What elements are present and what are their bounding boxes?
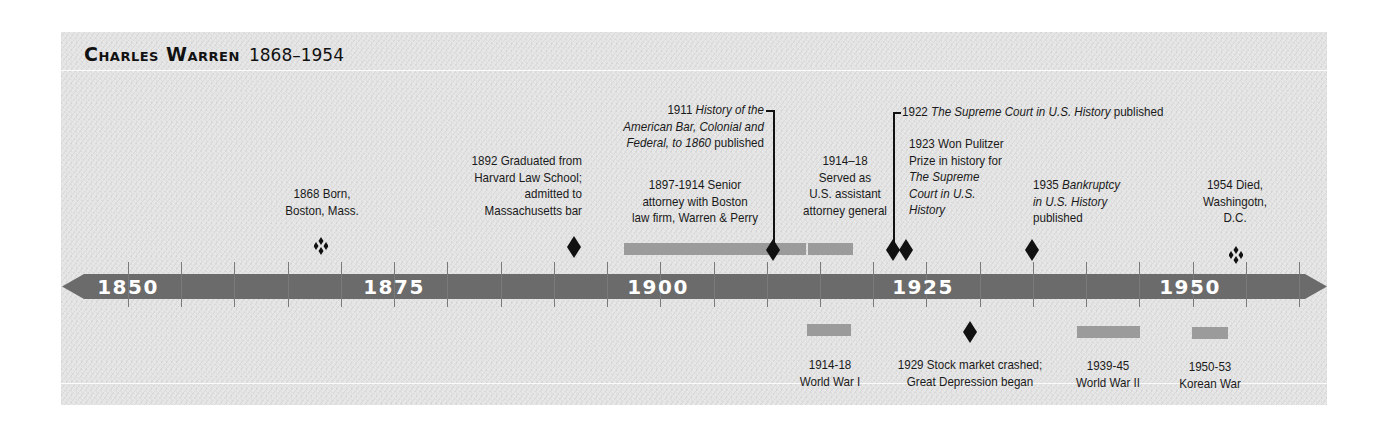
- label-line: 1939-45: [1065, 358, 1151, 375]
- label-line: 1897-1914 Senior: [613, 177, 776, 194]
- event-1911-history-label: 1911 History of the American Bar, Coloni…: [597, 102, 764, 152]
- tick-1910: [767, 262, 768, 307]
- label-line: admitted to: [453, 186, 582, 203]
- label-line: History: [909, 202, 1004, 219]
- tick-1940: [1086, 262, 1087, 307]
- axis-label-1850: 1850: [97, 274, 159, 299]
- label-line: World War II: [1065, 375, 1151, 392]
- timeline-axis-band: [62, 274, 1327, 299]
- tick-1865: [288, 262, 289, 307]
- tick-1885: [501, 262, 502, 307]
- event-1922-supreme-court-label: 1922 The Supreme Court in U.S. History p…: [902, 104, 1163, 121]
- tick-1920: [873, 262, 874, 307]
- tick-1860: [234, 262, 235, 307]
- label-line: Massachusetts bar: [453, 203, 582, 220]
- tick-1915: [820, 262, 821, 307]
- title-years: 1868–1954: [249, 45, 344, 65]
- bar-1914-18-assistant-ag: [808, 243, 853, 255]
- label-line: Harvard Law School;: [453, 170, 582, 187]
- label-line: 1923 Won Pulitzer: [909, 136, 1004, 153]
- axis-label-1875: 1875: [363, 274, 425, 299]
- diamond-marker-icon: [1025, 239, 1039, 261]
- tick-1890: [554, 262, 555, 307]
- diamond-marker-icon: [567, 236, 581, 258]
- axis-label-1950: 1950: [1159, 274, 1221, 299]
- event-1914-18-assistant-ag-label: 1914–18 Served as U.S. assistant attorne…: [802, 153, 888, 219]
- label-line: 1954 Died,: [1192, 177, 1278, 194]
- axis-label-1925: 1925: [892, 274, 954, 299]
- label-line: 1911 History of the: [597, 102, 764, 119]
- label-line: 1892 Graduated from: [453, 153, 582, 170]
- label-italic: American Bar, Colonial and: [623, 119, 764, 134]
- leader-line-1922-vertical: [893, 112, 895, 250]
- label-line: law firm, Warren & Perry: [613, 210, 776, 227]
- tick-1870: [341, 262, 342, 307]
- diamond-marker-icon: [963, 321, 977, 343]
- event-world-war-2-label: 1939-45 World War II: [1065, 358, 1151, 391]
- event-1897-1914-attorney-label: 1897-1914 Senior attorney with Boston la…: [613, 177, 776, 227]
- label-line: 1914-18: [787, 357, 873, 374]
- event-korean-war-label: 1950-53 Korean War: [1167, 359, 1253, 392]
- texture-line: [61, 70, 1327, 71]
- timeline-title: Charles Warren 1868–1954: [84, 43, 344, 65]
- label-line: Boston, Mass.: [279, 203, 365, 220]
- ornament-diamond-icon: [314, 237, 328, 255]
- bar-1939-45-world-war-2: [1077, 326, 1140, 338]
- label-line: Federal, to 1860 published: [597, 135, 764, 152]
- label-line: Korean War: [1167, 376, 1253, 393]
- label-line: Washingotn,: [1192, 194, 1278, 211]
- label-line: The Supreme: [909, 169, 1004, 186]
- label-italic: Court in U.S.: [909, 186, 975, 201]
- label-line: 1929 Stock market crashed;: [893, 357, 1048, 374]
- label-line: 1935 Bankruptcy: [1033, 177, 1120, 194]
- event-world-war-1-label: 1914-18 World War I: [787, 357, 873, 390]
- bar-1914-18-world-war-1: [807, 324, 851, 336]
- axis-label-1900: 1900: [627, 274, 689, 299]
- diamond-marker-icon: [899, 239, 913, 261]
- label-line: attorney with Boston: [613, 194, 776, 211]
- tick-1905: [714, 262, 715, 307]
- label-plain: published: [1114, 104, 1164, 119]
- label-italic: The Supreme Court in U.S. History: [931, 104, 1110, 119]
- label-line: published: [1033, 210, 1120, 227]
- event-1868-born-label: 1868 Born, Boston, Mass.: [279, 186, 365, 219]
- label-line: Prize in history for: [909, 153, 1004, 170]
- label-line: American Bar, Colonial and: [597, 119, 764, 136]
- label-line: 1868 Born,: [279, 186, 365, 203]
- label-line: Served as: [802, 170, 888, 187]
- event-1929-crash-label: 1929 Stock market crashed; Great Depress…: [893, 357, 1048, 390]
- tick-1960: [1299, 262, 1300, 307]
- tick-1930: [980, 262, 981, 307]
- tick-1855: [181, 262, 182, 307]
- label-line: attorney general: [802, 203, 888, 220]
- label-line: in U.S. History: [1033, 194, 1120, 211]
- label-italic: The Supreme: [909, 169, 979, 184]
- label-line: World War I: [787, 374, 873, 391]
- tick-1895: [607, 262, 608, 307]
- label-year: 1922: [902, 104, 928, 119]
- event-1935-bankruptcy-label: 1935 Bankruptcy in U.S. History publishe…: [1033, 177, 1120, 227]
- label-plain: published: [714, 135, 764, 150]
- label-italic: History: [909, 202, 945, 217]
- label-line: Great Depression began: [893, 374, 1048, 391]
- tick-1955: [1246, 262, 1247, 307]
- label-line: 1950-53: [1167, 359, 1253, 376]
- diamond-marker-icon: [766, 239, 780, 261]
- label-italic: History of the: [696, 102, 764, 117]
- label-line: Court in U.S.: [909, 186, 1004, 203]
- label-line: 1914–18: [802, 153, 888, 170]
- ornament-diamond-icon: [1229, 246, 1243, 264]
- label-line: D.C.: [1192, 210, 1278, 227]
- title-name: Charles Warren: [84, 43, 240, 65]
- event-1892-graduated-label: 1892 Graduated from Harvard Law School; …: [453, 153, 582, 219]
- label-italic: Bankruptcy: [1062, 177, 1120, 192]
- label-italic: in U.S. History: [1033, 194, 1107, 209]
- tick-1945: [1139, 262, 1140, 307]
- leader-line-1922-horizontal: [893, 112, 901, 114]
- event-1954-died-label: 1954 Died, Washingotn, D.C.: [1192, 177, 1278, 227]
- label-year: 1911: [667, 102, 692, 117]
- label-line: U.S. assistant: [802, 186, 888, 203]
- event-1923-pulitzer-label: 1923 Won Pulitzer Prize in history for T…: [909, 136, 1004, 219]
- tick-1935: [1033, 262, 1034, 307]
- bar-1950-53-korean-war: [1192, 327, 1228, 339]
